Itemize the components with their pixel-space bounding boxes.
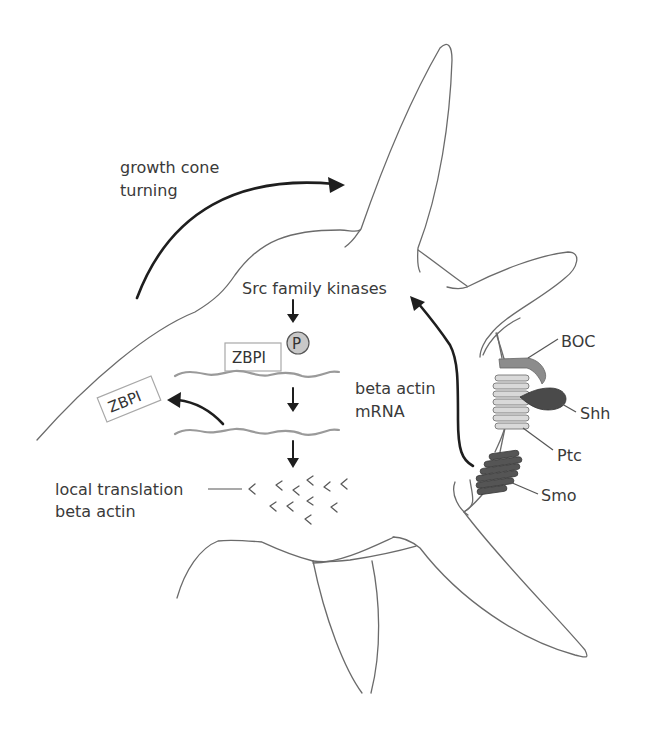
translation-arrow [287,441,299,468]
zbp1-bound-complex: ZBPI P [225,332,309,371]
boc-label: BOC [561,332,595,351]
zbp1-released: ZBPI [97,376,161,422]
growth-cone-label-line1: growth cone [120,158,219,177]
growth-cone-diagram: growth cone turning Src family kinases Z… [0,0,649,731]
beta-actin-mrna-label-line2: mRNA [355,402,405,421]
shh-label: Shh [580,404,610,423]
smo-leader [510,482,538,494]
boc-leader [528,339,558,358]
src-kinases-label: Src family kinases [242,279,387,298]
zbp1-bound-label: ZBPI [232,349,266,367]
mrna-strand-lower [175,429,339,435]
mrna-down-arrow [287,388,299,412]
smo-receptor [476,450,522,495]
ptc-leader [523,428,553,450]
ptc-receptor [493,375,529,429]
smo-label: Smo [541,486,577,505]
beta-actin-protein-chevrons [249,476,347,524]
local-translation-label-line1: local translation [55,480,183,499]
phosphate-label: P [292,335,301,353]
beta-actin-mrna-label-line1: beta actin [355,379,436,398]
cell-outline [37,44,587,693]
src-to-zbp1-arrow [287,300,299,323]
shh-leader [562,404,576,412]
ptc-label: Ptc [557,446,582,465]
growth-cone-label-line2: turning [120,181,178,200]
mrna-strand-upper [175,371,339,377]
zbp1-release-arrow [167,392,223,424]
local-translation-label-line2: beta actin [55,502,136,521]
